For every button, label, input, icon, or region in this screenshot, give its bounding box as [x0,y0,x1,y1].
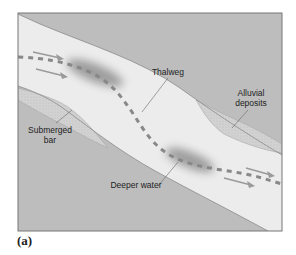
label-alluvial-1: Alluvial [238,88,265,98]
figure-caption: (a) [17,233,32,249]
river-channel-diagram: Thalweg Alluvial deposits Submerged bar … [0,0,296,255]
label-thalweg: Thalweg [152,67,184,77]
label-alluvial-2: deposits [235,98,267,108]
label-deeper-water: Deeper water [110,180,161,190]
diagram-svg: Thalweg Alluvial deposits Submerged bar … [0,0,296,255]
label-submerged-1: Submerged [28,125,72,135]
label-submerged-2: bar [44,135,56,145]
